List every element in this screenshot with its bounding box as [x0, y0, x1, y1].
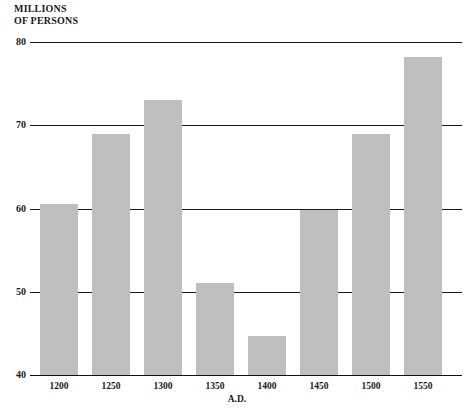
gridline — [30, 125, 462, 126]
y-tick-label: 50 — [6, 287, 26, 297]
x-tick-label: 1500 — [345, 380, 397, 392]
plot-area: 4050607080120012501300135014001450150015… — [0, 0, 474, 410]
x-tick-label: 1300 — [137, 380, 189, 392]
bar — [352, 134, 390, 375]
x-tick-label: 1350 — [189, 380, 241, 392]
bar — [92, 134, 130, 375]
x-tick-label: 1450 — [293, 380, 345, 392]
x-tick-label: 1550 — [397, 380, 449, 392]
bar — [144, 100, 182, 375]
x-tick-label: 1200 — [33, 380, 85, 392]
bar — [40, 204, 78, 375]
x-axis-title: A.D. — [0, 394, 474, 404]
bar-chart: MILLIONS OF PERSONS 40506070801200125013… — [0, 0, 474, 410]
bar — [196, 283, 234, 375]
bar — [300, 210, 338, 375]
bar — [404, 57, 442, 375]
bar — [248, 336, 286, 375]
x-axis-baseline — [30, 375, 462, 376]
y-tick-label: 80 — [6, 37, 26, 47]
y-tick-label: 40 — [6, 370, 26, 380]
x-tick-label: 1400 — [241, 380, 293, 392]
gridline — [30, 42, 462, 43]
x-tick-label: 1250 — [85, 380, 137, 392]
y-tick-label: 70 — [6, 120, 26, 130]
y-tick-label: 60 — [6, 204, 26, 214]
